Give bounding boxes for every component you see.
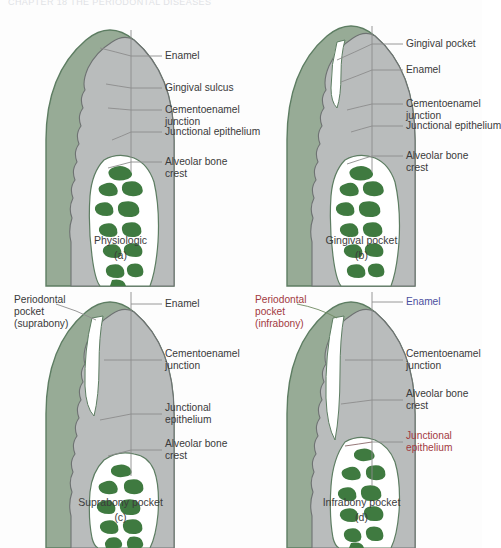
caption-b: Gingival pocket (b) bbox=[241, 234, 482, 261]
label-enamel-a: Enamel bbox=[165, 50, 200, 62]
label-cementoenamel-junction-a: Cementoenamel junction bbox=[165, 104, 240, 128]
label-cementoenamel-junction-d: Cementoenamel junction bbox=[406, 348, 481, 372]
caption-a-name: Physiologic bbox=[0, 234, 241, 246]
label-gingival-pocket-b: Gingival pocket bbox=[406, 38, 476, 50]
label-enamel-d: Enamel bbox=[406, 296, 441, 308]
label-junctional-epithelium-d: Junctional epithelium bbox=[406, 430, 452, 454]
caption-c: Suprabony pocket (c) bbox=[0, 496, 241, 523]
panel-physiologic: Enamel Gingival sulcus Cementoenamel jun… bbox=[0, 12, 241, 286]
caption-c-letter: (c) bbox=[0, 511, 241, 523]
label-periodontal-pocket-c: Periodontal pocket (suprabony) bbox=[14, 294, 68, 330]
caption-b-letter: (b) bbox=[241, 249, 482, 261]
caption-d-letter: (d) bbox=[241, 511, 482, 523]
label-cementoenamel-junction-b: Cementoenamel junction bbox=[406, 98, 481, 122]
panel-suprabony-pocket: Periodontal pocket (suprabony) Enamel Ce… bbox=[0, 274, 241, 548]
caption-d: Infrabony pocket (d) bbox=[241, 496, 482, 523]
label-alveolar-bone-crest-d: Alveolar bone crest bbox=[406, 388, 468, 412]
caption-a: Physiologic (a) bbox=[0, 234, 241, 261]
label-junctional-epithelium-c: Junctional epithelium bbox=[165, 402, 211, 426]
label-alveolar-bone-crest-b: Alveolar bone crest bbox=[406, 150, 468, 174]
panel-gingival-pocket: Gingival pocket Enamel Cementoenamel jun… bbox=[241, 12, 482, 286]
caption-c-name: Suprabony pocket bbox=[0, 496, 241, 508]
label-alveolar-bone-crest-c: Alveolar bone crest bbox=[165, 438, 227, 462]
label-enamel-b: Enamel bbox=[406, 64, 441, 76]
panel-infrabony-pocket: Periodontal pocket (infrabony) Enamel Ce… bbox=[241, 274, 482, 548]
label-periodontal-pocket-d: Periodontal pocket (infrabony) bbox=[255, 294, 307, 330]
label-alveolar-bone-crest-a: Alveolar bone crest bbox=[165, 156, 227, 180]
running-head: CHAPTER 18 THE PERIODONTAL DISEASES bbox=[8, 0, 268, 9]
label-junctional-epithelium-b: Junctional epithelium bbox=[406, 120, 501, 132]
caption-d-name: Infrabony pocket bbox=[241, 496, 482, 508]
label-cementoenamel-junction-c: Cementoenamel junction bbox=[165, 348, 240, 372]
label-gingival-sulcus-a: Gingival sulcus bbox=[165, 82, 234, 94]
caption-b-name: Gingival pocket bbox=[241, 234, 482, 246]
caption-a-letter: (a) bbox=[0, 249, 241, 261]
label-enamel-c: Enamel bbox=[165, 298, 200, 310]
